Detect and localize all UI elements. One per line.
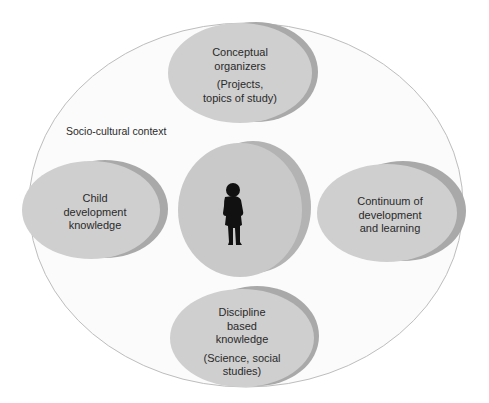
node-right-title-1: Continuum of: [335, 195, 445, 209]
node-top-label: Conceptual organizers (Projects, topics …: [180, 46, 300, 105]
context-label: Socio-cultural context: [66, 125, 166, 137]
node-top-subtitle-2: topics of study): [180, 92, 300, 106]
node-top-subtitle-1: (Projects,: [180, 78, 300, 92]
node-bottom-title-2: based: [182, 320, 302, 334]
node-bottom-subtitle-2: studies): [182, 365, 302, 379]
node-right-title-2: development: [335, 209, 445, 223]
node-top-subtitle: (Projects, topics of study): [180, 78, 300, 105]
node-bottom-label: Discipline based knowledge (Science, soc…: [182, 306, 302, 379]
node-top-title-1: Conceptual: [180, 46, 300, 60]
center-disc: [178, 141, 311, 277]
node-bottom-title-1: Discipline: [182, 306, 302, 320]
node-left-title-2: development: [40, 206, 150, 220]
node-bottom-subtitle-1: (Science, social: [182, 352, 302, 366]
node-bottom-subtitle: (Science, social studies): [182, 352, 302, 379]
node-left-title-3: knowledge: [40, 219, 150, 233]
node-right-label: Continuum of development and learning: [335, 195, 445, 236]
node-left-title-1: Child: [40, 192, 150, 206]
node-right-title-3: and learning: [335, 222, 445, 236]
node-top-title-2: organizers: [180, 60, 300, 74]
node-bottom-title-3: knowledge: [182, 333, 302, 347]
node-left-label: Child development knowledge: [40, 192, 150, 233]
